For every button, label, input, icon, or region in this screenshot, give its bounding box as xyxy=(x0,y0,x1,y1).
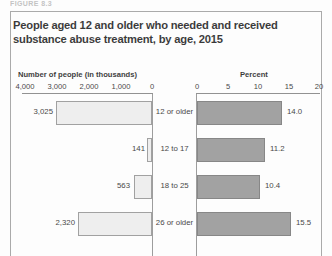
right-bar xyxy=(197,138,265,162)
left-axis-tick-0: 0 xyxy=(142,82,162,91)
left-axis-line xyxy=(22,93,153,94)
chart-row: 3,025 12 or older 14.0 xyxy=(0,95,332,131)
right-value-label: 10.4 xyxy=(265,181,280,190)
right-axis-tick-15: 15 xyxy=(279,82,299,91)
left-value-label: 141 xyxy=(104,144,145,153)
left-bar xyxy=(147,138,152,162)
right-value-label: 15.5 xyxy=(296,218,311,227)
left-value-label: 563 xyxy=(89,181,130,190)
category-label: 12 or older xyxy=(153,107,196,116)
category-label: 12 to 17 xyxy=(153,144,196,153)
right-value-label: 11.2 xyxy=(270,144,285,153)
right-bar xyxy=(197,101,282,125)
left-value-label: 3,025 xyxy=(12,107,53,116)
chart-title: People aged 12 and older who needed and … xyxy=(13,18,305,46)
left-axis-tick-2000: 2,000 xyxy=(76,82,102,91)
right-axis-tick-10: 10 xyxy=(248,82,268,91)
left-axis-tick-4000: 4,000 xyxy=(12,82,38,91)
chart-row: 2,320 26 or older 15.5 xyxy=(0,206,332,242)
right-axis-line xyxy=(196,93,320,94)
left-value-label: 2,320 xyxy=(34,218,75,227)
right-axis-tick-5: 5 xyxy=(218,82,238,91)
left-axis-title: Number of people (in thousands) xyxy=(18,70,137,79)
category-label: 26 or older xyxy=(153,218,196,227)
chart-row: 141 12 to 17 11.2 xyxy=(0,132,332,168)
category-label: 18 to 25 xyxy=(153,181,196,190)
right-bar xyxy=(197,175,260,199)
left-axis-tick-3000: 3,000 xyxy=(44,82,70,91)
right-axis-tick-20: 20 xyxy=(309,82,329,91)
right-axis-title: Percent xyxy=(240,70,268,79)
left-bar xyxy=(56,101,152,125)
right-axis-tick-0: 0 xyxy=(187,82,207,91)
left-bar xyxy=(78,212,152,236)
right-value-label: 14.0 xyxy=(287,107,302,116)
left-axis-tick-1000: 1,000 xyxy=(108,82,134,91)
left-bar xyxy=(134,175,152,199)
right-bar xyxy=(197,212,291,236)
figure-number-label: FIGURE 8.3 xyxy=(10,0,130,9)
chart-row: 563 18 to 25 10.4 xyxy=(0,169,332,205)
